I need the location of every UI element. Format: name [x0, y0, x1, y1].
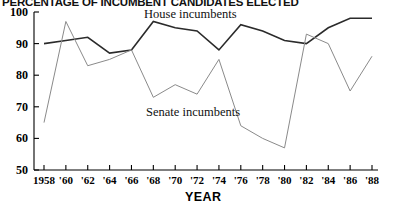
x-axis-title: YEAR [185, 190, 221, 204]
x-axis-tick-label: '64 [99, 174, 121, 186]
y-axis-tick-label: 60 [2, 132, 28, 144]
x-axis-tick-label: '76 [230, 174, 252, 186]
x-axis-tick-label: '80 [274, 174, 296, 186]
series-annotation: Senate incumbents [146, 106, 240, 119]
y-axis-tick-label: 70 [2, 101, 28, 113]
x-axis-tick-label: '88 [361, 174, 383, 186]
x-axis-tick-label: '86 [339, 174, 361, 186]
series-annotation: House incumbents [144, 8, 237, 21]
x-axis-tick-label: '72 [186, 174, 208, 186]
x-axis-tick-label: '62 [77, 174, 99, 186]
x-axis-tick-label: '66 [120, 174, 142, 186]
x-axis-tick-label: '78 [252, 174, 274, 186]
y-axis-tick-label: 90 [2, 38, 28, 50]
chart-container: PERCENTAGE OF INCUMBENT CANDIDATES ELECT… [0, 0, 409, 208]
series-line-house-incumbents [44, 18, 372, 53]
x-axis-tick-label: '74 [208, 174, 230, 186]
y-axis-tick-label: 50 [2, 164, 28, 176]
x-axis-tick-label: '70 [164, 174, 186, 186]
y-axis-tick-label: 80 [2, 69, 28, 81]
x-axis-tick-label: '68 [142, 174, 164, 186]
x-axis-tick-label: '84 [317, 174, 339, 186]
x-axis-tick-label: '82 [295, 174, 317, 186]
y-axis-tick-label: 100 [2, 6, 28, 18]
x-axis-tick-label: '60 [55, 174, 77, 186]
